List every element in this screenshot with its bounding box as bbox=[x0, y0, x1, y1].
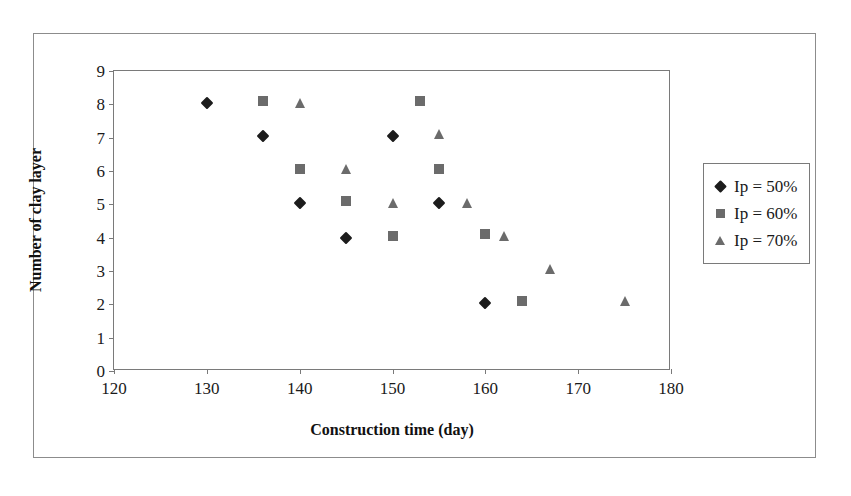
x-tick-label-120: 120 bbox=[101, 380, 127, 397]
y-tick-9 bbox=[109, 71, 114, 72]
x-tick-label-160: 160 bbox=[473, 380, 499, 397]
x-tick-label-140: 140 bbox=[287, 380, 313, 397]
data-point bbox=[499, 231, 509, 241]
y-tick-5 bbox=[109, 204, 114, 205]
legend-item-label: Ip = 60% bbox=[734, 205, 797, 222]
legend-item-label: Ip = 50% bbox=[734, 178, 797, 195]
data-point bbox=[545, 264, 555, 274]
legend-item-2[interactable]: Ip = 60% bbox=[713, 200, 797, 227]
data-point bbox=[415, 96, 425, 106]
data-point bbox=[340, 231, 353, 244]
y-tick-label-2: 2 bbox=[97, 296, 106, 313]
data-point bbox=[293, 196, 306, 209]
y-tick-3 bbox=[109, 271, 114, 272]
y-tick-label-4: 4 bbox=[97, 229, 106, 246]
y-tick-8 bbox=[109, 104, 114, 105]
legend-diamond-icon bbox=[713, 182, 727, 191]
y-tick-label-7: 7 bbox=[97, 129, 106, 146]
y-tick-6 bbox=[109, 171, 114, 172]
y-tick-label-5: 5 bbox=[97, 196, 106, 213]
y-tick-4 bbox=[109, 238, 114, 239]
data-point bbox=[256, 130, 269, 143]
data-point bbox=[388, 198, 398, 208]
x-tick-170 bbox=[578, 369, 579, 374]
x-tick-label-130: 130 bbox=[194, 380, 220, 397]
y-tick-label-0: 0 bbox=[97, 363, 106, 380]
x-tick-140 bbox=[300, 369, 301, 374]
x-tick-label-170: 170 bbox=[565, 380, 591, 397]
x-tick-label-150: 150 bbox=[380, 380, 406, 397]
data-point bbox=[517, 296, 527, 306]
triangle-marker-icon bbox=[715, 236, 725, 245]
legend-item-3[interactable]: Ip = 70% bbox=[713, 227, 797, 254]
y-tick-label-8: 8 bbox=[97, 96, 106, 113]
chart-legend: Ip = 50%Ip = 60%Ip = 70% bbox=[703, 163, 810, 264]
legend-item-label: Ip = 70% bbox=[734, 232, 797, 249]
legend-square-icon bbox=[713, 209, 727, 218]
legend-item-1[interactable]: Ip = 50% bbox=[713, 173, 797, 200]
x-tick-120 bbox=[114, 369, 115, 374]
x-axis-title: Construction time (day) bbox=[310, 421, 474, 439]
x-tick-label-180: 180 bbox=[658, 380, 684, 397]
y-tick-1 bbox=[109, 338, 114, 339]
y-tick-label-3: 3 bbox=[97, 263, 106, 280]
data-point bbox=[258, 96, 268, 106]
x-tick-150 bbox=[393, 369, 394, 374]
data-point bbox=[434, 164, 444, 174]
y-axis-title: Number of clay layer bbox=[27, 148, 45, 292]
x-tick-180 bbox=[671, 369, 672, 374]
data-point bbox=[388, 231, 398, 241]
y-tick-label-6: 6 bbox=[97, 163, 106, 180]
data-point bbox=[200, 96, 213, 109]
data-point bbox=[620, 296, 630, 306]
data-point bbox=[386, 130, 399, 143]
data-point bbox=[462, 198, 472, 208]
x-tick-130 bbox=[207, 369, 208, 374]
data-point bbox=[295, 98, 305, 108]
y-tick-label-9: 9 bbox=[97, 63, 106, 80]
data-point bbox=[433, 196, 446, 209]
diamond-marker-icon bbox=[714, 180, 727, 193]
scatter-chart: Number of clay layer Construction time (… bbox=[0, 0, 851, 496]
square-marker-icon bbox=[716, 209, 725, 218]
data-point bbox=[434, 129, 444, 139]
data-point bbox=[341, 164, 351, 174]
legend-triangle-icon bbox=[713, 236, 727, 245]
data-point bbox=[479, 296, 492, 309]
y-tick-2 bbox=[109, 304, 114, 305]
plot-area: 0123456789 120130140150160170180 bbox=[113, 70, 670, 370]
y-tick-7 bbox=[109, 138, 114, 139]
data-point bbox=[480, 229, 490, 239]
data-point bbox=[295, 164, 305, 174]
x-tick-160 bbox=[485, 369, 486, 374]
y-tick-label-1: 1 bbox=[97, 329, 106, 346]
data-point bbox=[341, 196, 351, 206]
